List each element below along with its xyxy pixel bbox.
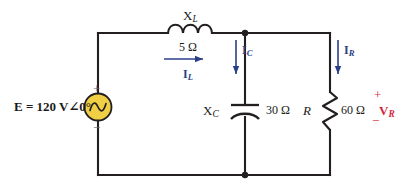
inductor-icon xyxy=(168,25,212,33)
capacitor-symbol-subscript: C xyxy=(212,109,218,119)
resistor-value-label: 60 Ω xyxy=(341,104,365,116)
inductor-current-arrow xyxy=(164,56,203,62)
capacitor-current-label: IC xyxy=(242,44,252,58)
inductor-symbol-subscript: L xyxy=(192,14,197,24)
resistor-symbol-label: R xyxy=(303,104,311,117)
source-minus-sign: − xyxy=(93,121,100,134)
node-dot-bottom xyxy=(242,172,248,178)
capacitor-current-subscript: C xyxy=(247,48,253,58)
capacitor-symbol-label: XC xyxy=(203,104,219,119)
inductor-current-subscript: L xyxy=(188,72,193,82)
resistor-current-arrow xyxy=(335,40,341,74)
inductor-symbol-text: X xyxy=(183,8,192,23)
resistor-voltage-subscript: R xyxy=(388,109,394,119)
capacitor-symbol-text: X xyxy=(203,103,212,118)
inductor-value-label: 5 Ω xyxy=(179,41,197,53)
resistor-voltage-minus-sign: − xyxy=(372,114,379,127)
circuit-schematic-svg xyxy=(0,0,406,192)
circuit-diagram: E = 120 V∠0° + − XL 5 Ω IL IC IR XC 30 Ω… xyxy=(0,0,406,192)
resistor-current-label: IR xyxy=(344,44,354,58)
resistor-voltage-text: V xyxy=(379,103,388,118)
node-dot-top xyxy=(242,30,248,36)
inductor-current-label: IL xyxy=(183,68,193,82)
source-label: E = 120 V∠0° xyxy=(14,100,91,113)
inductor-symbol-label: XL xyxy=(183,9,198,24)
resistor-icon xyxy=(323,92,337,130)
capacitor-current-arrow xyxy=(233,40,239,74)
resistor-voltage-label: VR xyxy=(379,104,395,119)
capacitor-value-label: 30 Ω xyxy=(266,104,290,116)
resistor-current-subscript: R xyxy=(349,48,355,58)
resistor-voltage-plus-sign: + xyxy=(374,88,381,101)
source-plus-sign: + xyxy=(93,82,100,95)
